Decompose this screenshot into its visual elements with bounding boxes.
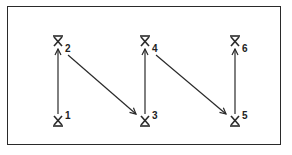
node-1-label: 1 [65,111,71,121]
node-4-label: 4 [152,44,158,54]
node-2-label: 2 [65,44,71,54]
node-6-icon [230,36,240,46]
node-2-icon [53,36,63,46]
node-4-icon [140,36,150,46]
node-3-label: 3 [152,111,158,121]
node-5-label: 5 [242,111,248,121]
node-5-icon [230,116,240,126]
node-3-icon [140,116,150,126]
diagram-canvas [0,0,292,155]
edge-2-3 [68,55,136,114]
node-1-icon [53,116,63,126]
node-6-label: 6 [242,44,248,54]
edge-4-5 [156,55,226,114]
